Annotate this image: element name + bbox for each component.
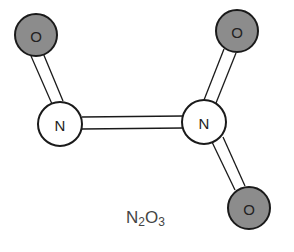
bond-n2-o2 [204,49,236,103]
atom-oxygen-1: O [15,14,57,56]
atom-label: N [55,117,66,134]
atom-nitrogen-1: N [38,102,82,146]
bond-n1-n2 [82,116,183,129]
formula-element-n: N [126,208,138,227]
atom-label: O [243,201,255,218]
atom-label: O [231,24,243,41]
formula-element-o: O [145,208,158,227]
chemical-formula: N2O3 [126,208,165,229]
bond-o1-n1 [31,53,63,104]
atom-label: N [199,115,210,132]
atom-nitrogen-2: N [182,100,226,144]
bond-n2-o3 [212,137,245,190]
formula-subscript-o: 3 [158,215,165,229]
atom-oxygen-3: O [228,187,270,229]
atom-oxygen-2: O [216,10,258,52]
atom-label: O [30,28,42,45]
formula-subscript-n: 2 [138,215,145,229]
